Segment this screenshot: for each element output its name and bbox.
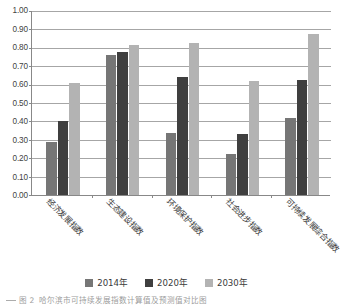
x-axis-label: 可持续发展综合指数 [284, 197, 341, 254]
y-axis-tick-label: 0.40 [2, 118, 28, 126]
legend-label: 2030年 [217, 279, 248, 288]
x-axis-label: 经济发展指数 [45, 197, 85, 237]
bar[interactable] [106, 55, 117, 195]
bar[interactable] [297, 80, 308, 195]
legend-swatch-icon [205, 279, 213, 287]
bar[interactable] [69, 83, 80, 195]
bar[interactable] [189, 43, 200, 195]
bar[interactable] [46, 142, 57, 195]
x-axis-label: 生态建设指数 [104, 197, 144, 237]
chart-legend: 2014年2020年2030年 [0, 276, 333, 290]
y-axis-tick-label: 0.00 [2, 192, 28, 200]
legend-label: 2014年 [97, 279, 128, 288]
caption-text: 哈尔滨市可持续发展指数计算值及预测值对比图 [39, 296, 207, 305]
bar[interactable] [249, 81, 260, 195]
x-axis-label: 社会进步指数 [224, 197, 264, 237]
x-axis-labels: 经济发展指数生态建设指数环境保护指数社会进步指数可持续发展综合指数 [31, 197, 330, 272]
y-axis-tick-label: 0.50 [2, 100, 28, 108]
bar-groups [32, 11, 331, 195]
y-axis-tick [29, 195, 32, 196]
legend-item[interactable]: 2030年 [205, 279, 248, 288]
y-axis-tick-label: 1.00 [2, 7, 28, 15]
y-axis-tick-label: 0.80 [2, 44, 28, 52]
y-axis-tick-label: 0.20 [2, 155, 28, 163]
bar[interactable] [308, 34, 319, 195]
bar[interactable] [177, 77, 188, 195]
plot-area [31, 11, 330, 196]
bar[interactable] [117, 52, 128, 195]
legend-item[interactable]: 2020年 [145, 279, 188, 288]
legend-swatch-icon [85, 279, 93, 287]
legend-item[interactable]: 2014年 [85, 279, 128, 288]
bar-group [226, 11, 260, 195]
bar[interactable] [226, 154, 237, 195]
bar-group [166, 11, 200, 195]
bar[interactable] [237, 134, 248, 195]
x-axis-label: 环境保护指数 [164, 197, 204, 237]
bar[interactable] [58, 121, 69, 195]
bar-group [285, 11, 319, 195]
caption-prefix: 图 2 [19, 296, 34, 305]
plot-wrapper: 1.00 0.90 0.80 0.70 0.60 0.50 0.40 0.30 … [0, 0, 333, 200]
bar[interactable] [166, 133, 177, 195]
y-axis-tick-label: 0.30 [2, 137, 28, 145]
legend-label: 2020年 [157, 279, 188, 288]
bar-group [46, 11, 80, 195]
y-axis-tick-label: 0.60 [2, 81, 28, 89]
bar[interactable] [285, 118, 296, 195]
y-axis-tick-label: 0.90 [2, 26, 28, 34]
legend-swatch-icon [145, 279, 153, 287]
figure-caption: 图 2 哈尔滨市可持续发展指数计算值及预测值对比图 [6, 296, 326, 305]
y-axis-tick-label: 0.10 [2, 174, 28, 182]
bar-group [106, 11, 140, 195]
y-axis-tick-label: 0.70 [2, 63, 28, 71]
bar[interactable] [129, 45, 140, 195]
caption-dash [6, 300, 16, 301]
